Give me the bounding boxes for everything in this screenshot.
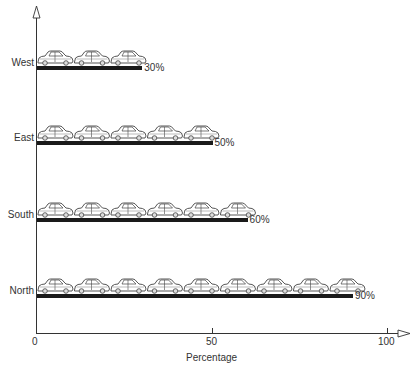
car-icon — [294, 279, 329, 293]
car-icon — [75, 126, 110, 140]
car-icon — [38, 126, 73, 140]
value-label-west: 30% — [144, 62, 164, 73]
car-icon — [221, 279, 256, 293]
car-icon — [38, 203, 73, 217]
x-axis-title: Percentage — [186, 352, 237, 363]
bar-west — [37, 66, 142, 70]
car-icon — [148, 126, 183, 140]
car-icon — [38, 279, 73, 293]
value-label-east: 50% — [215, 137, 235, 148]
value-label-south: 60% — [250, 214, 270, 225]
bar-north — [37, 294, 353, 298]
car-icon — [38, 51, 73, 65]
car-icon — [257, 279, 292, 293]
chart-svg — [0, 0, 416, 372]
value-label-north: 90% — [355, 290, 375, 301]
x-tick-label-50: 50 — [206, 336, 217, 347]
category-label-south: South — [0, 209, 34, 220]
car-icon — [184, 203, 219, 217]
car-icon — [184, 279, 219, 293]
category-label-north: North — [0, 285, 34, 296]
car-icon — [75, 203, 110, 217]
car-icon — [111, 203, 146, 217]
car-icon — [111, 126, 146, 140]
car-icon — [75, 51, 110, 65]
bar-south — [37, 218, 248, 222]
x-tick-label-0: 0 — [32, 336, 38, 347]
bar-east — [37, 141, 213, 145]
x-axis-arrow-icon — [398, 330, 410, 337]
car-icons — [38, 51, 365, 293]
x-tick-label-100: 100 — [378, 336, 395, 347]
car-icon — [148, 203, 183, 217]
car-icon — [111, 279, 146, 293]
category-label-east: East — [0, 132, 34, 143]
car-icon — [75, 279, 110, 293]
car-icon — [148, 279, 183, 293]
y-axis-arrow-icon — [33, 6, 40, 18]
category-label-west: West — [0, 57, 34, 68]
car-icon — [111, 51, 146, 65]
